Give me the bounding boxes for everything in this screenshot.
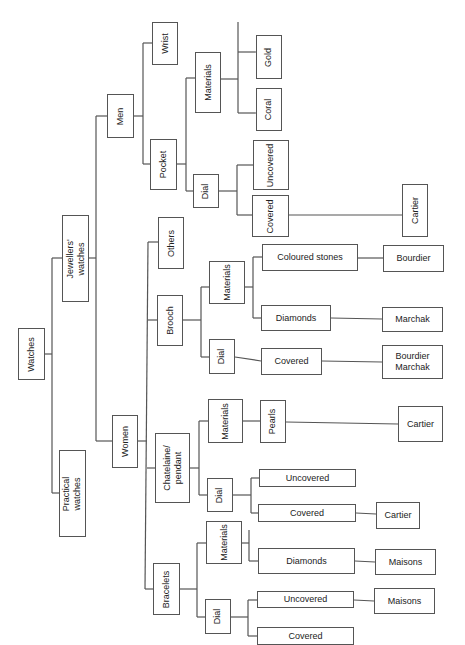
node-chatelaine-materials: Materials bbox=[208, 399, 243, 443]
node-brooch-coloured-stones-maker: Bourdier bbox=[383, 245, 444, 272]
node-bracelets-diamonds-maker: Maisons bbox=[375, 549, 436, 575]
node-bracelets-dial: Dial bbox=[205, 599, 231, 634]
node-pocket-dial-covered-cartier: Cartier bbox=[402, 184, 428, 237]
node-brooch-dial-covered: Covered bbox=[261, 348, 322, 375]
node-bracelets-dial-covered: Covered bbox=[257, 627, 354, 645]
node-jewellers-watches: Jewellers' watches bbox=[62, 215, 89, 302]
node-chatelaine-dial-uncovered: Uncovered bbox=[259, 469, 356, 487]
node-bracelets-dial-uncovered: Uncovered bbox=[257, 591, 354, 608]
node-brooch-materials: Materials bbox=[209, 261, 245, 304]
node-chatelaine-pearls-maker: Cartier bbox=[398, 406, 443, 442]
node-pocket: Pocket bbox=[150, 139, 177, 190]
node-bracelets: Bracelets bbox=[153, 563, 180, 615]
node-practical-watches: Practical watches bbox=[59, 450, 86, 537]
node-chatelaine-dial: Dial bbox=[207, 478, 233, 512]
node-pocket-dial: Dial bbox=[193, 174, 219, 208]
node-brooch-diamonds-maker: Marchak bbox=[382, 307, 443, 332]
node-pocket-gold: Gold bbox=[256, 35, 282, 79]
node-pocket-coral: Coral bbox=[256, 88, 282, 131]
node-brooch-dial: Dial bbox=[209, 339, 235, 374]
node-chatelaine-dial-covered: Covered bbox=[258, 504, 356, 522]
node-others: Others bbox=[158, 217, 184, 269]
node-chatelaine-dial-covered-maker: Cartier bbox=[376, 502, 420, 529]
node-brooch: Brooch bbox=[157, 295, 183, 346]
node-pocket-dial-covered: Covered bbox=[252, 195, 289, 237]
node-chatelaine-pendant: Chatelaine/ pendant bbox=[155, 433, 190, 503]
node-brooch-coloured-stones: Coloured stones bbox=[262, 244, 358, 271]
node-bracelets-dial-uncovered-maker: Maisons bbox=[374, 588, 435, 614]
node-bracelets-diamonds: Diamonds bbox=[258, 548, 355, 574]
node-women: Women bbox=[112, 415, 138, 468]
node-brooch-diamonds: Diamonds bbox=[261, 305, 331, 331]
node-brooch-dial-covered-makers: Bourdier Marchak bbox=[382, 345, 443, 379]
node-watches: Watches bbox=[18, 328, 45, 380]
node-men: Men bbox=[107, 94, 134, 138]
node-chatelaine-pearls: Pearls bbox=[260, 400, 286, 443]
node-pocket-materials: Materials bbox=[195, 52, 221, 113]
node-pocket-dial-uncovered: Uncovered bbox=[253, 140, 289, 190]
node-wrist: Wrist bbox=[152, 22, 178, 65]
node-bracelets-materials: Materials bbox=[206, 521, 242, 564]
